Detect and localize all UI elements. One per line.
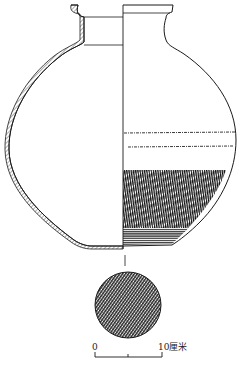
vessel-base-view [90,268,170,343]
pottery-drawing [0,0,238,373]
vessel-section-left [5,5,123,249]
scale-end-label: 10厘米 [158,343,187,352]
scale-bar [95,352,162,357]
vessel-exterior-right [123,5,236,246]
scale-start-label: 0 [92,343,98,352]
